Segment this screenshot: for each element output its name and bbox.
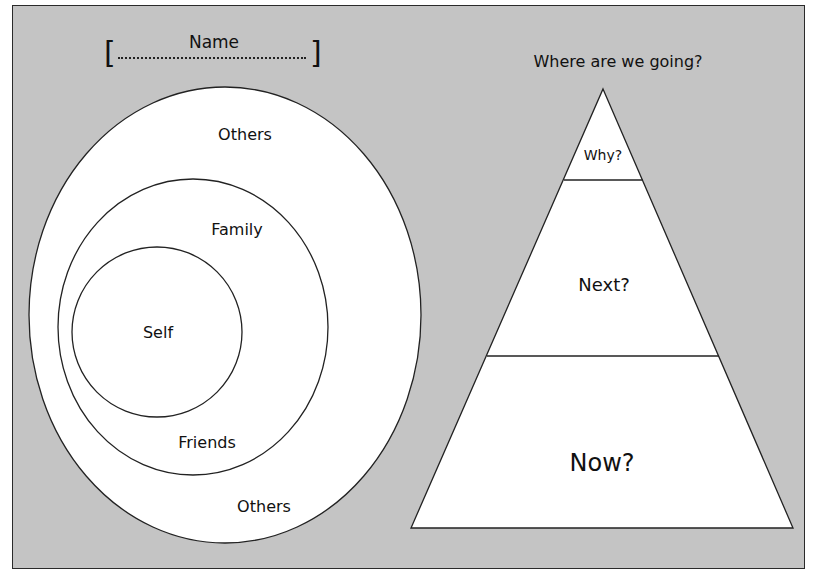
pyramid-title: Where are we going? [533, 52, 702, 71]
pyramid-tier-why: Why? [584, 147, 622, 163]
name-label: Name [189, 32, 239, 52]
others-top-label: Others [218, 125, 272, 144]
self-label: Self [143, 323, 173, 342]
pyramid-tier-next: Next? [578, 274, 630, 295]
diagram-canvas [0, 0, 815, 582]
name-input-line[interactable] [118, 57, 306, 59]
family-label: Family [211, 220, 262, 239]
pyramid-tier-now: Now? [569, 449, 634, 477]
friends-label: Friends [178, 433, 236, 452]
name-close-bracket: ] [310, 38, 322, 68]
others-bottom-label: Others [237, 497, 291, 516]
name-open-bracket: [ [104, 38, 116, 68]
